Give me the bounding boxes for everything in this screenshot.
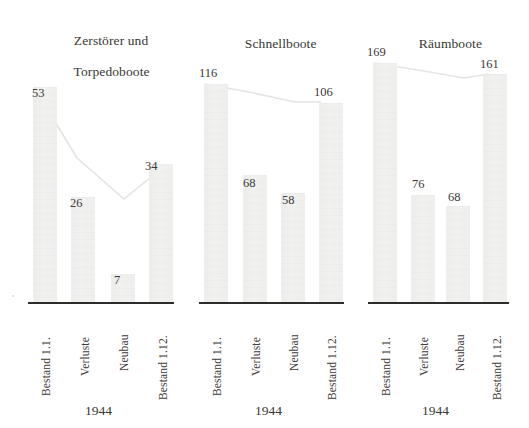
panel-title: Räumboote bbox=[398, 20, 482, 67]
x-axis-baseline bbox=[28, 302, 174, 304]
chart-figure: Zerstörer und Torpedoboote 53 26 7 34 Be… bbox=[0, 0, 529, 428]
bar-neubau bbox=[281, 193, 305, 303]
bar-bestand-1-1 bbox=[373, 63, 397, 303]
x-axis-baseline bbox=[368, 302, 509, 304]
bar-bestand-1-12 bbox=[319, 103, 343, 303]
category-label-verluste: Verluste bbox=[250, 337, 262, 376]
year-label: 1944 bbox=[255, 404, 282, 418]
panel-title: Zerstörer und Torpedoboote bbox=[53, 17, 150, 95]
category-label-neubau: Neubau bbox=[118, 334, 130, 371]
category-label-neubau: Neubau bbox=[454, 334, 466, 371]
bar-value-label: 68 bbox=[243, 177, 256, 190]
bar-bestand-1-1 bbox=[204, 84, 228, 303]
category-label-bestand-1-12: Bestand 1.12. bbox=[491, 335, 503, 400]
bar-value-label: 76 bbox=[412, 178, 425, 191]
category-label-neubau: Neubau bbox=[288, 334, 300, 371]
panel-zerstorer-und-torpedoboote: Zerstörer und Torpedoboote 53 26 7 34 Be… bbox=[0, 0, 190, 428]
plot-area bbox=[28, 86, 174, 303]
panel-raumboote: Räumboote 169 76 68 161 Bestand 1.1. Ver… bbox=[360, 0, 529, 428]
bar-value-label: 161 bbox=[480, 58, 499, 71]
panel-title-line1: Schnellboote bbox=[245, 36, 317, 51]
panel-schnellboote: Schnellboote 116 68 58 106 Bestand 1.1. … bbox=[190, 0, 360, 428]
plot-area bbox=[368, 62, 509, 303]
plot-area bbox=[199, 83, 344, 303]
category-label-bestand-1-12: Bestand 1.12. bbox=[326, 335, 338, 400]
x-axis-baseline bbox=[199, 302, 344, 304]
bar-bestand-1-12 bbox=[149, 164, 173, 303]
category-label-bestand-1-1: Bestand 1.1. bbox=[40, 337, 52, 396]
bar-value-label: 26 bbox=[70, 197, 83, 210]
bar-verluste bbox=[71, 197, 95, 303]
bar-value-label: 58 bbox=[282, 194, 295, 207]
year-label: 1944 bbox=[422, 404, 449, 418]
bar-neubau bbox=[446, 206, 470, 303]
panel-title: Schnellboote bbox=[224, 20, 317, 67]
category-label-bestand-1-12: Bestand 1.12. bbox=[157, 335, 169, 400]
panel-title-line1: Räumboote bbox=[419, 36, 482, 51]
bar-value-label: 7 bbox=[114, 274, 120, 287]
bar-value-label: 106 bbox=[314, 86, 333, 99]
bar-value-label: 116 bbox=[199, 67, 217, 80]
bar-verluste bbox=[411, 195, 435, 303]
bar-verluste bbox=[243, 175, 267, 303]
panel-title-line2: Torpedoboote bbox=[74, 64, 150, 79]
bar-value-label: 68 bbox=[448, 191, 461, 204]
bar-bestand-1-12 bbox=[483, 74, 507, 303]
bar-value-label: 169 bbox=[367, 46, 386, 59]
category-label-verluste: Verluste bbox=[418, 337, 430, 376]
year-label: 1944 bbox=[85, 404, 112, 418]
bar-value-label: 53 bbox=[32, 87, 45, 100]
category-label-bestand-1-1: Bestand 1.1. bbox=[380, 337, 392, 396]
panel-title-line1: Zerstörer und bbox=[74, 33, 148, 48]
bar-value-label: 34 bbox=[145, 160, 158, 173]
category-label-verluste: Verluste bbox=[79, 337, 91, 376]
bar-bestand-1-1 bbox=[33, 87, 57, 303]
category-label-bestand-1-1: Bestand 1.1. bbox=[211, 337, 223, 396]
